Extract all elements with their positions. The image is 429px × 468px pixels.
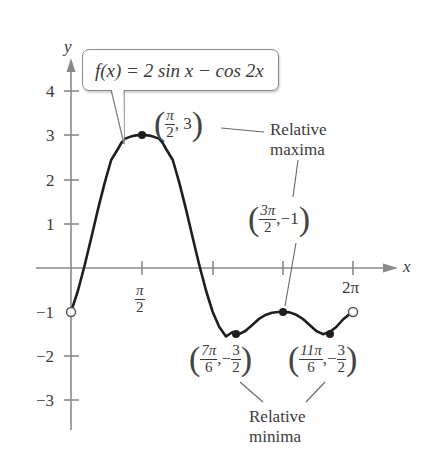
function-label: f(x) = 2 sin x − cos 2x (95, 60, 264, 82)
y-tick-label: 2 (46, 172, 55, 189)
x-tick-label-pi-half: π2 (135, 283, 145, 316)
y-tick-label: 4 (46, 83, 55, 100)
y-tick-label: 1 (46, 216, 55, 233)
x-tick-label-two-pi: 2π (342, 279, 359, 296)
y-tick-label: −2 (36, 348, 54, 365)
relative-minima-label: Relative minima (249, 407, 306, 446)
y-tick-label: −3 (36, 392, 54, 409)
x-axis-label: x (403, 258, 411, 275)
label-min-7pi-6: ( 7π6 ,− 32 ) (189, 340, 252, 378)
label-max-3pi-half: ( 3π2 ,−1 ) (248, 200, 310, 238)
y-tick-label: 3 (46, 127, 55, 144)
y-tick-label: −1 (36, 304, 54, 321)
label-min-11pi-6: ( 11π6 ,− 32 ) (288, 340, 357, 378)
relative-maxima-label: Relative maxima (270, 120, 327, 159)
label-max-pi-half: ( π2 , 3 ) (154, 105, 203, 143)
y-axis-label: y (64, 38, 72, 55)
